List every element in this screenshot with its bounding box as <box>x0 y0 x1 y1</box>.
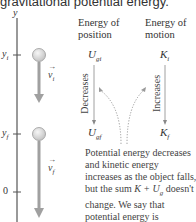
symbol-kf: Kf <box>160 126 169 141</box>
velocity-arrow-final <box>38 141 41 209</box>
tick-label-zero: 0 <box>3 185 8 196</box>
increases-arrowhead <box>163 120 167 125</box>
velocity-arrowhead-final <box>34 208 44 218</box>
velocity-label-final: →vf <box>48 162 54 176</box>
tick-label-yi: yi <box>2 48 8 62</box>
velocity-arrow-initial <box>38 62 41 95</box>
label-decreases: Decreases <box>79 69 90 119</box>
dotted-curve-right <box>127 90 144 144</box>
explanation-paragraph: Potential energy decreases and kinetic e… <box>85 147 196 222</box>
ball-final-icon <box>33 128 46 141</box>
velocity-arrowhead-initial <box>34 94 44 103</box>
dotted-curve-left <box>100 90 121 144</box>
ball-initial-icon <box>33 49 46 62</box>
label-increases: Increases <box>151 69 162 119</box>
heading-energy-of-motion: Energy of motion <box>145 17 187 41</box>
symbol-ugi: Ugi <box>88 48 101 63</box>
velocity-label-initial: →vi <box>48 69 54 83</box>
symbol-ki: Ki <box>160 48 169 63</box>
heading-energy-of-position: Energy of position <box>78 17 120 41</box>
symbol-ugf: Ugf <box>88 126 101 141</box>
axis-label-y: y <box>13 7 17 18</box>
decreases-arrowhead <box>92 120 96 125</box>
tick-label-yf: yf <box>2 127 8 141</box>
